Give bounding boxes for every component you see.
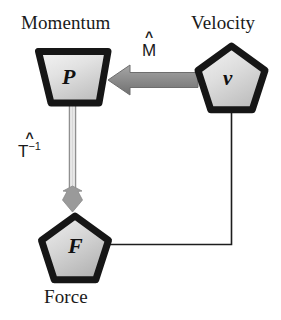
edge-momentum-to-force [63, 104, 83, 212]
node-label-momentum: Momentum [21, 12, 110, 34]
node-label-velocity: Velocity [191, 12, 255, 34]
edge-label-t-inverse: ^ T−1 [18, 133, 41, 160]
node-velocity[interactable] [198, 46, 265, 110]
edge-label-t-base: T [18, 142, 28, 161]
edge-label-t-exponent: −1 [28, 140, 41, 152]
node-force[interactable] [42, 216, 109, 280]
node-label-force: Force [44, 286, 88, 308]
edge-force-to-velocity [108, 106, 232, 245]
edge-velocity-to-momentum [108, 65, 198, 95]
diagram-graphics [0, 0, 281, 320]
diagram-canvas: P v F Momentum Velocity Force ^ M ^ T−1 [0, 0, 281, 320]
edge-label-m-base: M [142, 42, 156, 59]
node-momentum[interactable] [39, 52, 109, 104]
edge-label-m-hat: ^ M [142, 32, 156, 59]
edge-label-t-base-row: T−1 [18, 143, 41, 160]
